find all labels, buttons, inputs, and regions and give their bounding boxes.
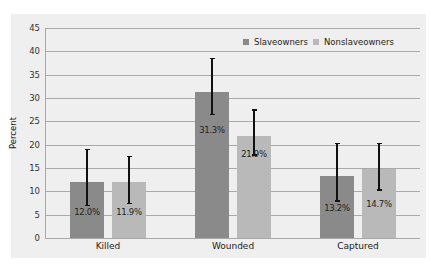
error-cap-bottom: [335, 200, 340, 202]
y-tick-label: 30: [20, 93, 40, 103]
y-tick-label: 0: [20, 233, 40, 243]
gridline: [45, 238, 420, 239]
error-cap-bottom: [377, 189, 382, 191]
error-bar: [86, 149, 88, 205]
y-tick-label: 15: [20, 163, 40, 173]
error-bar: [128, 156, 130, 203]
gridline: [45, 51, 420, 52]
y-tick-label: 5: [20, 210, 40, 220]
bar-value-label: 31.3%: [187, 125, 237, 135]
gridline: [45, 28, 420, 29]
bar-value-label: 14.7%: [354, 199, 404, 209]
x-category-label: Killed: [68, 241, 148, 252]
error-cap-bottom: [210, 114, 215, 116]
error-cap-top: [127, 156, 132, 158]
error-cap-top: [85, 149, 90, 151]
y-tick-label: 35: [20, 70, 40, 80]
error-cap-bottom: [127, 203, 132, 205]
legend-label: Nonslaveowners: [324, 37, 394, 47]
legend-swatch: [313, 39, 319, 45]
gridline: [45, 145, 420, 146]
y-tick-label: 25: [20, 116, 40, 126]
y-axis-line: [45, 28, 46, 238]
y-axis-label: Percent: [8, 108, 18, 158]
y-tick-label: 45: [20, 23, 40, 33]
bar-value-label: 11.9%: [104, 207, 154, 217]
legend-label: Slaveowners: [254, 37, 308, 47]
error-cap-top: [377, 143, 382, 145]
bar-value-label: 21.9%: [229, 149, 279, 159]
y-tick-label: 40: [20, 46, 40, 56]
error-cap-top: [335, 143, 340, 145]
y-tick-label: 10: [20, 186, 40, 196]
x-category-label: Captured: [318, 241, 398, 252]
error-cap-top: [210, 58, 215, 60]
legend-item-nonslaveowners: Nonslaveowners: [313, 37, 394, 47]
error-bar: [336, 143, 338, 200]
legend-item-slaveowners: Slaveowners: [243, 37, 308, 47]
y-tick-label: 20: [20, 140, 40, 150]
error-bar: [378, 143, 380, 190]
gridline: [45, 98, 420, 99]
legend-swatch: [243, 39, 249, 45]
gridline: [45, 75, 420, 76]
x-category-label: Wounded: [193, 241, 273, 252]
gridline: [45, 121, 420, 122]
error-bar: [211, 58, 213, 114]
error-cap-top: [252, 109, 257, 111]
